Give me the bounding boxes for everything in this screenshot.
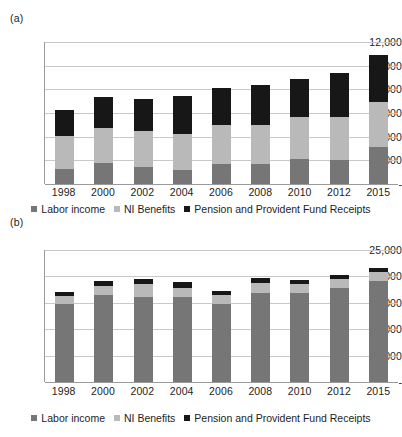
bar-column[interactable] — [251, 42, 270, 184]
x-tick-label: 2010 — [280, 385, 319, 397]
legend-label: Labor income — [41, 412, 105, 424]
stacked-bar[interactable] — [173, 96, 192, 184]
bar-column[interactable] — [173, 250, 192, 382]
bar-segment — [369, 147, 388, 184]
stacked-bar[interactable] — [212, 291, 231, 382]
bar-segment — [55, 110, 74, 135]
bar-segment — [173, 297, 192, 382]
legend-swatch-icon — [114, 415, 120, 421]
legend-swatch-icon — [184, 415, 190, 421]
bar-column[interactable] — [55, 250, 74, 382]
bar-segment — [290, 284, 309, 294]
bar-column[interactable] — [94, 42, 113, 184]
bar-segment — [212, 304, 231, 382]
stacked-bar[interactable] — [369, 268, 388, 382]
bar-segment — [173, 288, 192, 297]
bar-column[interactable] — [330, 42, 349, 184]
panel-b-bar-group — [45, 250, 398, 382]
stacked-bar[interactable] — [173, 282, 192, 382]
bar-segment — [290, 79, 309, 116]
bar-column[interactable] — [55, 42, 74, 184]
bar-segment — [369, 55, 388, 102]
legend-item[interactable]: Labor income — [31, 412, 105, 424]
panel-a: (a) 12,00010,0008,0006,0004,0002,000- 19… — [0, 0, 402, 218]
bar-column[interactable] — [212, 42, 231, 184]
x-tick-label: 2008 — [241, 385, 280, 397]
x-tick-label: 2012 — [319, 186, 358, 198]
bar-segment — [55, 304, 74, 382]
bar-segment — [173, 134, 192, 171]
bar-segment — [369, 281, 388, 382]
x-tick-label: 2000 — [83, 385, 122, 397]
bar-segment — [290, 117, 309, 160]
legend-label: NI Benefits — [124, 412, 175, 424]
bar-segment — [251, 283, 270, 294]
legend-item[interactable]: Pension and Provident Fund Receipts — [184, 412, 370, 424]
bar-segment — [251, 125, 270, 164]
bar-segment — [251, 293, 270, 382]
x-tick-label: 2012 — [319, 385, 358, 397]
axis-baseline — [45, 184, 398, 185]
bar-segment — [134, 284, 153, 297]
bar-column[interactable] — [369, 250, 388, 382]
legend-item[interactable]: NI Benefits — [114, 412, 175, 424]
bar-segment — [94, 128, 113, 163]
x-tick-label: 2000 — [83, 186, 122, 198]
x-tick-label: 2006 — [201, 385, 240, 397]
bar-segment — [94, 295, 113, 382]
stacked-bar[interactable] — [55, 110, 74, 184]
panel-a-tag: (a) — [10, 12, 23, 24]
panel-a-x-axis-labels: 199820002002200420062008201020122015 — [44, 186, 398, 198]
bar-column[interactable] — [290, 42, 309, 184]
stacked-bar[interactable] — [55, 292, 74, 382]
bar-segment — [290, 159, 309, 184]
stacked-bar[interactable] — [134, 99, 153, 184]
panel-b-bars-region — [44, 250, 398, 382]
x-tick-label: 2006 — [201, 186, 240, 198]
stacked-bar[interactable] — [94, 281, 113, 382]
bar-column[interactable] — [251, 250, 270, 382]
x-tick-label: 2002 — [123, 385, 162, 397]
bar-segment — [369, 272, 388, 280]
bar-segment — [330, 160, 349, 184]
legend-swatch-icon — [31, 415, 37, 421]
stacked-bar[interactable] — [330, 275, 349, 382]
bar-column[interactable] — [369, 42, 388, 184]
x-tick-label: 1998 — [44, 186, 83, 198]
stacked-bar[interactable] — [134, 279, 153, 382]
bar-column[interactable] — [212, 250, 231, 382]
bar-segment — [55, 136, 74, 170]
stacked-bar[interactable] — [290, 79, 309, 184]
panel-b-plot-area: 25,00020,00015,00010,0005,000- — [0, 244, 402, 382]
x-tick-label: 2004 — [162, 385, 201, 397]
x-tick-label: 2002 — [123, 186, 162, 198]
bar-column[interactable] — [290, 250, 309, 382]
bar-segment — [251, 85, 270, 125]
x-tick-label: 1998 — [44, 385, 83, 397]
bar-segment — [330, 279, 349, 288]
legend-label: Pension and Provident Fund Receipts — [194, 412, 370, 424]
stacked-bar[interactable] — [94, 97, 113, 184]
bar-segment — [134, 131, 153, 168]
stacked-bar[interactable] — [212, 88, 231, 184]
bar-column[interactable] — [94, 250, 113, 382]
stacked-bar[interactable] — [290, 280, 309, 382]
bar-column[interactable] — [330, 250, 349, 382]
x-tick-label: 2008 — [241, 186, 280, 198]
stacked-bar[interactable] — [330, 73, 349, 184]
bar-segment — [173, 96, 192, 133]
bar-segment — [251, 164, 270, 184]
x-tick-label: 2004 — [162, 186, 201, 198]
bar-segment — [330, 288, 349, 382]
stacked-bar[interactable] — [369, 55, 388, 184]
bar-segment — [55, 296, 74, 304]
bar-column[interactable] — [134, 250, 153, 382]
bar-segment — [134, 99, 153, 131]
stacked-bar[interactable] — [251, 278, 270, 382]
bar-segment — [330, 117, 349, 160]
bar-column[interactable] — [134, 42, 153, 184]
stacked-bar[interactable] — [251, 85, 270, 184]
bar-segment — [94, 163, 113, 184]
bar-column[interactable] — [173, 42, 192, 184]
bar-segment — [290, 293, 309, 382]
